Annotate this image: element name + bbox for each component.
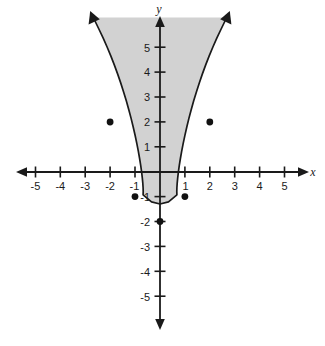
- y-tick-label: 3: [144, 91, 150, 103]
- x-tick-label: -5: [31, 180, 41, 192]
- x-axis-label: x: [309, 165, 316, 179]
- coordinate-plane: -5 -4 -3 -2 -1 1 2 3 4 5 5 4 3 2 1 -1 -2…: [0, 0, 325, 346]
- x-tick-label: 1: [183, 180, 189, 192]
- plot-point: [107, 119, 114, 126]
- plot-point: [206, 119, 213, 126]
- graph-figure: -5 -4 -3 -2 -1 1 2 3 4 5 5 4 3 2 1 -1 -2…: [0, 0, 325, 346]
- y-tick-label: -3: [140, 241, 150, 253]
- y-tick-label: -2: [140, 216, 150, 228]
- x-tick-label: 5: [281, 180, 287, 192]
- y-tick-label: 2: [144, 116, 150, 128]
- plot-point: [157, 218, 164, 225]
- plot-point: [132, 193, 139, 200]
- y-axis-label: y: [155, 2, 162, 16]
- x-tick-label: 4: [257, 180, 263, 192]
- x-tick-label: -3: [80, 180, 90, 192]
- y-tick-label: -5: [140, 291, 150, 303]
- x-tick-label: -2: [105, 180, 115, 192]
- y-tick-label: 5: [144, 42, 150, 54]
- x-tick-label: 3: [232, 180, 238, 192]
- y-tick-label: -4: [140, 266, 150, 278]
- x-tick-label: -4: [55, 180, 65, 192]
- y-tick-label: 4: [144, 66, 150, 78]
- y-tick-label: 1: [144, 141, 150, 153]
- plot-point: [182, 193, 189, 200]
- x-tick-label: 2: [207, 180, 213, 192]
- x-tick-label: -1: [130, 180, 140, 192]
